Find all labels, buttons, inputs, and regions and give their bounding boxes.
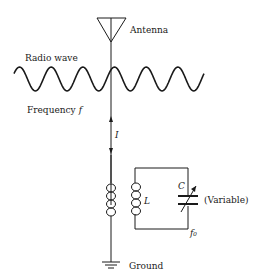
tank-circuit bbox=[132, 168, 199, 229]
secondary-coil bbox=[132, 183, 141, 215]
antenna-symbol bbox=[97, 18, 126, 42]
current-label: I bbox=[114, 130, 119, 140]
radio-wave-label: Radio wave bbox=[25, 53, 78, 63]
current-arrow-down bbox=[109, 148, 113, 154]
ground-label: Ground bbox=[129, 261, 164, 271]
primary-coil bbox=[107, 155, 116, 262]
capacitor-label: C bbox=[178, 181, 185, 191]
ground-symbol bbox=[102, 262, 120, 268]
radio-wave bbox=[14, 67, 204, 91]
current-arrow-up bbox=[109, 116, 113, 122]
resonant-frequency-label: f₀ bbox=[189, 228, 197, 238]
capacitor-variable-note: (Variable) bbox=[204, 195, 249, 205]
radio-receiver-diagram: Antenna I Radio wave Frequencyf bbox=[0, 0, 263, 277]
frequency-label: Frequencyf bbox=[27, 105, 84, 115]
antenna-label: Antenna bbox=[129, 25, 169, 35]
inductor-label: L bbox=[143, 196, 150, 206]
